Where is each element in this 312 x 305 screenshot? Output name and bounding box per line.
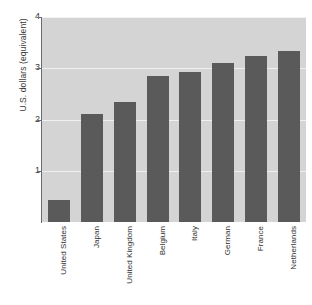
x-tick-label: Belgium	[158, 226, 167, 255]
bar	[48, 200, 70, 222]
gridline	[42, 17, 306, 18]
bar	[245, 56, 267, 222]
x-tick-label-slot: United Kingdom	[114, 224, 136, 302]
x-tick-label-slot: Netherlands	[278, 224, 300, 302]
x-tick-label-slot: German	[212, 224, 234, 302]
x-tick-label-slot: United States	[48, 224, 70, 302]
bar	[179, 72, 201, 222]
x-tick-label: United Kingdom	[125, 226, 134, 284]
x-tick-label: France	[256, 226, 265, 251]
bar	[147, 76, 169, 222]
bar	[81, 114, 103, 222]
x-tick-label-slot: Belgium	[147, 224, 169, 302]
bar-chart-figure: U.S. dollars (equivalent) 1234 United St…	[0, 0, 312, 305]
x-tick-label: Netherlands	[289, 226, 298, 270]
y-tick-mark	[37, 120, 42, 121]
x-tick-label-slot: France	[245, 224, 267, 302]
x-tick-label: Italy	[190, 226, 199, 241]
y-tick-mark	[37, 68, 42, 69]
x-tick-label: United States	[59, 226, 68, 275]
x-tick-label-slot: Japan	[81, 224, 103, 302]
x-axis-tick-labels: United StatesJapanUnited KingdomBelgiumI…	[42, 224, 306, 304]
y-axis-tick-labels: 1234	[16, 0, 40, 305]
x-tick-label: German	[223, 226, 232, 255]
x-tick-label: Japan	[92, 226, 101, 248]
plot-area	[42, 17, 306, 222]
y-tick-mark	[37, 17, 42, 18]
bar	[114, 102, 136, 222]
bar	[278, 51, 300, 222]
x-tick-label-slot: Italy	[179, 224, 201, 302]
bar	[212, 63, 234, 222]
y-tick-mark	[37, 171, 42, 172]
